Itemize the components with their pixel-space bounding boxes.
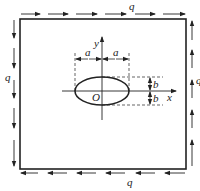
label-a-left: a [85, 46, 91, 58]
label-b-top: b [153, 78, 159, 90]
label-a-right: a [113, 46, 119, 58]
label-x-axis: x [166, 91, 172, 103]
shear-plate-diagram: q q q q y x O a a b b [0, 0, 200, 191]
label-b-bottom: b [153, 92, 159, 104]
label-q-top: q [129, 0, 135, 12]
label-q-left: q [5, 71, 11, 83]
plate-outline [20, 19, 186, 169]
label-origin: O [92, 91, 100, 103]
label-y-axis: y [93, 37, 99, 49]
label-q-bottom: q [127, 176, 133, 188]
label-q-right: q [196, 74, 200, 86]
